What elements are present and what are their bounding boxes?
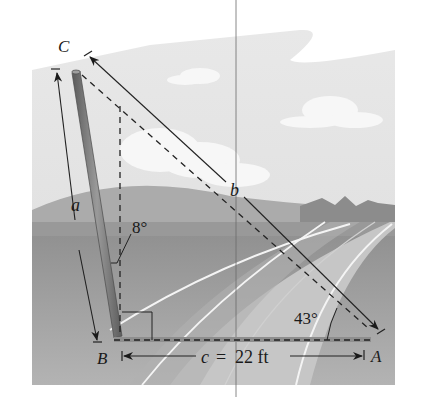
triangle-pole-diagram: C B A a b c = 22 ft 8° 43° bbox=[0, 0, 428, 397]
angle-43-label: 43° bbox=[294, 309, 318, 328]
vertex-C-label: C bbox=[58, 37, 70, 56]
side-b-label: b bbox=[230, 180, 239, 200]
side-c-label: c = 22 ft bbox=[197, 345, 289, 367]
side-a-label: a bbox=[71, 195, 80, 215]
side-c-variable: c bbox=[201, 347, 209, 367]
vertex-A-label: A bbox=[370, 347, 382, 366]
side-c-value: 22 ft bbox=[235, 347, 269, 367]
side-c-equals: = bbox=[216, 347, 226, 367]
angle-8-label: 8° bbox=[132, 218, 147, 237]
ground-baseline-band bbox=[114, 337, 371, 342]
vertex-B-label: B bbox=[97, 349, 108, 368]
